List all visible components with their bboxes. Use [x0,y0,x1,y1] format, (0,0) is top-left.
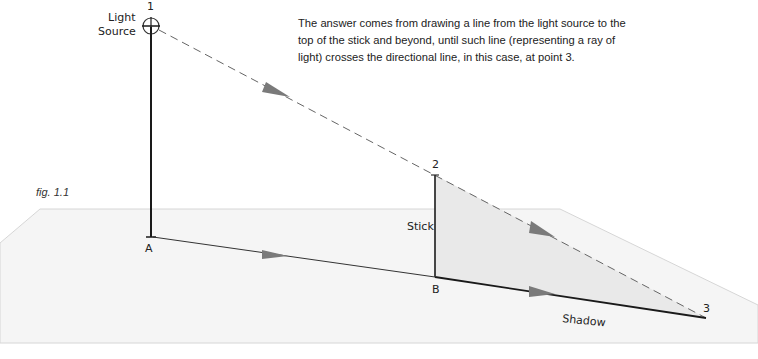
ground-plane [0,209,758,343]
point-b-label: B [432,283,440,296]
point-3-label: 3 [703,302,710,315]
figure-caption: The answer comes from drawing a line fro… [298,15,628,66]
ray-arrow-icon [262,82,290,97]
figure-label: fig. 1.1 [36,186,69,198]
light-source-label-line2: Source [98,25,136,38]
stick-label: Stick [407,220,434,233]
point-a-label: A [145,242,153,255]
point-1-label: 1 [147,0,154,13]
point-2-label: 2 [432,158,439,171]
light-source-icon [142,17,160,35]
light-source-label-line1: Light [108,11,135,24]
